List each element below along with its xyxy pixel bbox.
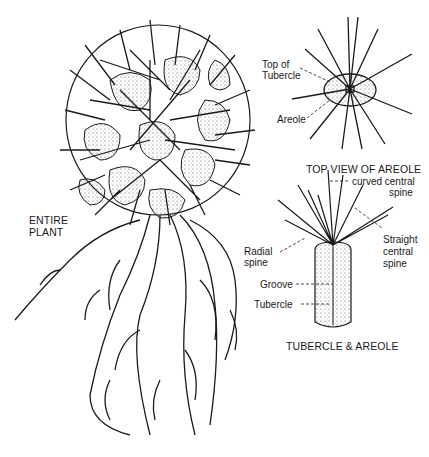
label-curved-central-spine-line2: spine xyxy=(389,187,413,198)
label-radial-spine-line2: spine xyxy=(244,257,268,268)
tubercle-side-view xyxy=(278,170,393,327)
roots xyxy=(15,215,237,435)
illustration xyxy=(0,0,429,457)
areole-top-view xyxy=(292,17,412,149)
label-straight-central-spine-line3: spine xyxy=(383,258,407,269)
label-top-of-tubercle-line2: Tubercle xyxy=(262,70,301,81)
label-areole: Areole xyxy=(277,114,306,125)
label-top-of-tubercle-line1: Top of xyxy=(262,59,289,70)
label-groove: Groove xyxy=(260,279,293,290)
caption-entire-plant-line1: ENTIRE xyxy=(29,214,68,226)
label-curved-central-spine-line1: curved central xyxy=(352,176,415,187)
label-straight-central-spine-line2: central xyxy=(383,246,413,257)
cactus-body xyxy=(60,20,255,225)
label-straight-central-spine-line1: Straight xyxy=(383,234,417,245)
label-tubercle: Tubercle xyxy=(254,299,293,310)
caption-tubercle-and-areole: TUBERCLE & AREOLE xyxy=(286,340,399,352)
label-radial-spine-line1: Radial xyxy=(244,246,272,257)
caption-top-view-of-areole: TOP VIEW OF AREOLE xyxy=(306,163,421,175)
caption-entire-plant-line2: PLANT xyxy=(29,226,63,238)
